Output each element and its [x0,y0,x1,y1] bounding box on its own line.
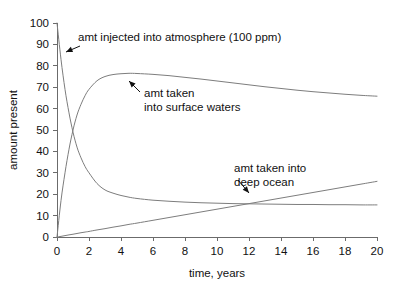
y-axis-tick-label: 40 [36,145,49,157]
chart-canvas: 0102030405060708090100 02468101214161820… [0,0,395,287]
annotation-atmosphere: amt injected into atmosphere (100 ppm) [66,31,281,52]
annotation-deep-ocean: amt taken intodeep ocean [234,162,306,193]
x-axis-tick-label: 2 [86,245,92,257]
x-axis-tick-label: 4 [118,245,125,257]
x-axis-tick-label: 0 [54,245,60,257]
y-axis-tick-label: 20 [36,188,49,200]
y-axis-tick-group: 0102030405060708090100 [30,17,57,243]
y-axis-title: amount present [7,89,19,170]
y-axis-tick-label: 60 [36,103,49,115]
annotation-label: amt taken [144,87,195,99]
x-axis-tick-group: 02468101214161820 [54,237,384,257]
annotation-group: amt injected into atmosphere (100 ppm)am… [66,31,306,193]
annotation-label: into surface waters [144,101,241,113]
x-axis-tick-label: 10 [211,245,224,257]
x-axis-tick-label: 14 [275,245,288,257]
y-axis-tick-label: 50 [36,124,49,136]
series-line-1 [57,23,377,205]
series-line-2 [57,73,377,237]
data-series-group [57,23,377,237]
y-axis-tick-label: 80 [36,60,49,72]
x-axis-tick-label: 16 [307,245,320,257]
y-axis-tick-label: 10 [36,210,49,222]
annotation-surface-waters: amt takeninto surface waters [129,81,241,113]
annotation-label: amt injected into atmosphere (100 ppm) [78,31,281,43]
x-axis-tick-label: 12 [243,245,256,257]
chart-figure: 0102030405060708090100 02468101214161820… [0,0,395,287]
x-axis-title: time, years [189,267,245,279]
y-axis-tick-label: 0 [43,231,49,243]
x-axis-tick-label: 18 [339,245,352,257]
y-axis-tick-label: 30 [36,167,49,179]
x-axis-tick-label: 8 [182,245,188,257]
annotation-label: amt taken into [234,162,306,174]
y-axis-tick-label: 100 [30,17,49,29]
y-axis-tick-label: 90 [36,38,49,50]
y-axis-tick-label: 70 [36,81,49,93]
x-axis-tick-label: 6 [150,245,156,257]
x-axis-tick-label: 20 [371,245,384,257]
